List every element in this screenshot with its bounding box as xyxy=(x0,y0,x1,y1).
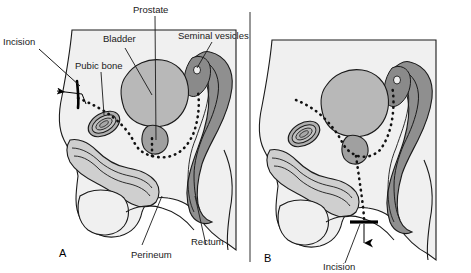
label-bladder: Bladder xyxy=(103,33,136,44)
panel-letter-a: A xyxy=(59,247,67,259)
bladder-a xyxy=(121,60,188,127)
label-rectum: Rectum xyxy=(191,236,224,247)
label-incision-b: Incision xyxy=(323,261,355,272)
label-incision-a: Incision xyxy=(3,36,35,47)
panel-letter-b: B xyxy=(264,252,271,264)
seminal-vesicle-lumen-b xyxy=(394,76,401,84)
prostate-a xyxy=(142,125,168,154)
prostate-b xyxy=(342,135,368,164)
label-perineum: Perineum xyxy=(131,249,172,260)
figure-canvas: Incision Pubic bone Bladder Prostate Sem… xyxy=(0,0,471,273)
label-pubic-bone: Pubic bone xyxy=(75,60,123,71)
scrotum-b xyxy=(278,200,328,245)
scrotum-a xyxy=(78,190,128,235)
label-seminal-vesicles: Seminal vesicles xyxy=(178,30,249,41)
anatomy-figure: Incision Pubic bone Bladder Prostate Sem… xyxy=(0,0,471,273)
label-prostate: Prostate xyxy=(133,4,168,15)
